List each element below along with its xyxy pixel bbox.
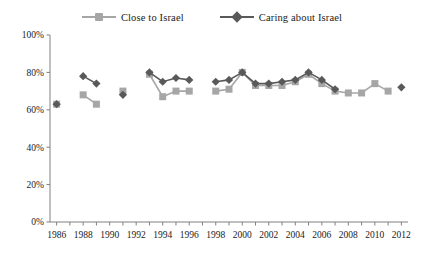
x-tick-label: 2010 — [365, 230, 384, 240]
x-tick-label: 2000 — [233, 230, 252, 240]
x-tick-label: 1998 — [206, 230, 225, 240]
y-tick-label: 40% — [27, 143, 45, 153]
data-point-marker — [371, 80, 378, 87]
x-tick-label: 1996 — [180, 230, 199, 240]
y-tick-label: 0% — [31, 217, 44, 227]
x-tick-label: 1986 — [47, 230, 66, 240]
y-tick-label: 60% — [27, 105, 45, 115]
data-point-marker — [80, 91, 87, 98]
data-point-marker — [212, 88, 219, 95]
data-point-marker — [79, 72, 87, 80]
x-tick-label: 2006 — [312, 230, 331, 240]
y-tick-label: 20% — [27, 180, 45, 190]
data-series-group — [53, 68, 406, 108]
data-point-marker — [172, 74, 180, 82]
x-tick-label: 2002 — [259, 230, 278, 240]
x-tick-label: 1988 — [74, 230, 93, 240]
x-tick-label: 2008 — [339, 230, 358, 240]
x-axis: 1986198819901992199419961998200020022004… — [47, 222, 411, 240]
x-tick-label: 1990 — [100, 230, 119, 240]
data-point-marker — [358, 89, 365, 96]
data-point-marker — [385, 88, 392, 95]
y-tick-label: 100% — [22, 30, 44, 40]
data-point-marker — [345, 89, 352, 96]
x-tick-label: 2012 — [392, 230, 411, 240]
series-close-to-israel — [53, 69, 391, 108]
chart-plot-area: 0%20%40%60%80%100% 198619881990199219941… — [0, 0, 424, 254]
x-tick-label: 1992 — [127, 230, 146, 240]
data-point-marker — [185, 76, 193, 84]
x-tick-label: 1994 — [153, 230, 172, 240]
data-point-marker — [226, 86, 233, 93]
x-tick-label: 2004 — [286, 230, 305, 240]
chart-container: Close to Israel Caring about Israel 0%20… — [0, 0, 424, 254]
data-point-marker — [159, 93, 166, 100]
data-point-marker — [397, 83, 405, 91]
y-axis: 0%20%40%60%80%100% — [22, 30, 50, 227]
data-point-marker — [225, 76, 233, 84]
y-tick-label: 80% — [27, 68, 45, 78]
data-point-marker — [212, 78, 220, 86]
data-point-marker — [186, 88, 193, 95]
data-point-marker — [93, 101, 100, 108]
data-point-marker — [92, 80, 100, 88]
data-point-marker — [172, 88, 179, 95]
